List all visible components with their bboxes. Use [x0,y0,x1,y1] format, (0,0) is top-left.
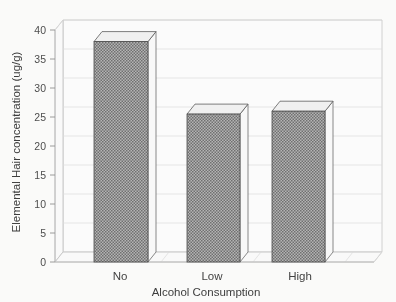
bar-low-front [187,114,240,262]
x-tick-label-no: No [113,270,128,282]
bar-no-front [94,42,148,262]
bar-no-side [148,32,156,262]
chart-page: 40 35 30 25 20 15 10 5 0 [0,0,396,302]
x-tick-labels: No Low High [113,270,312,282]
chart-canvas: 40 35 30 25 20 15 10 5 0 [0,0,396,302]
bar-high-top [272,101,333,111]
plot-left-wall [55,20,63,262]
y-tick-label-5: 5 [40,227,46,239]
bar-low-top [187,104,248,114]
bar-no[interactable] [94,32,156,262]
y-tick-label-0: 0 [40,256,46,268]
bar-high-front [272,111,325,262]
y-tick-labels: 40 35 30 25 20 15 10 5 0 [34,24,46,268]
y-tick-label-30: 30 [34,82,46,94]
x-tick-label-low: Low [201,270,223,282]
bar-low-side [240,104,248,262]
y-tick-label-35: 35 [34,53,46,65]
y-tick-label-10: 10 [34,198,46,210]
bar-high[interactable] [272,101,333,262]
y-axis-title: Elemental Hair concentration (ug/g) [10,51,22,232]
bar-high-side [325,101,333,262]
y-ticks [50,30,55,262]
x-axis-title: Alcohol Consumption [152,286,261,298]
x-tick-label-high: High [288,270,312,282]
y-tick-label-25: 25 [34,111,46,123]
bar-no-top [94,32,156,42]
bar-chart: 40 35 30 25 20 15 10 5 0 [0,0,396,302]
y-tick-label-40: 40 [34,24,46,36]
bar-low[interactable] [187,104,248,262]
y-tick-label-15: 15 [34,169,46,181]
y-tick-label-20: 20 [34,140,46,152]
